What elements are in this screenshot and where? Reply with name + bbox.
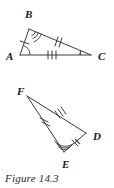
- side-fe-ticks: [40, 118, 50, 126]
- figure-caption: Figure 14.3: [5, 172, 59, 184]
- vertex-label-f: F: [16, 85, 25, 97]
- vertex-label-c: C: [98, 50, 106, 62]
- triangles-diagram: A B C: [0, 0, 114, 188]
- triangle-abc: A B C: [5, 8, 106, 62]
- geometry-figure: A B C: [0, 0, 114, 188]
- angle-arc-c: [80, 51, 81, 56]
- side-fd: [27, 96, 86, 133]
- vertex-label-b: B: [24, 8, 32, 20]
- triangle-fed: F E D: [16, 85, 101, 170]
- side-bc-ticks: [55, 37, 62, 47]
- vertex-label-a: A: [5, 50, 13, 62]
- vertex-label-d: D: [92, 130, 101, 142]
- angle-arc-a: [24, 46, 30, 55]
- side-fd-ticks: [55, 107, 66, 118]
- vertex-label-e: E: [61, 158, 69, 170]
